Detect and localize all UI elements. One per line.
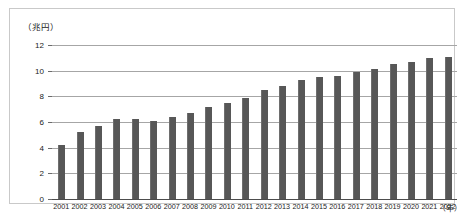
y-axis-tick-label: 8 <box>22 92 44 101</box>
y-axis-tick-label: 12 <box>22 41 44 50</box>
bar <box>95 126 102 199</box>
bar <box>205 107 212 199</box>
y-axis-tick-mark <box>48 45 52 46</box>
x-axis-unit-label: （年） <box>438 202 462 213</box>
bar <box>77 132 84 199</box>
bar <box>371 69 378 199</box>
bar <box>298 80 305 199</box>
y-axis-tick-mark <box>48 96 52 97</box>
bar <box>353 72 360 199</box>
y-axis-tick-label: 10 <box>22 66 44 75</box>
bar <box>445 57 452 199</box>
y-axis-tick-label: 0 <box>22 195 44 204</box>
bar <box>408 62 415 199</box>
y-axis-tick-mark <box>48 148 52 149</box>
bar <box>58 145 65 199</box>
x-axis-tick-labels: 2001200220032004200520062007200820092010… <box>52 202 457 214</box>
x-axis-line <box>52 199 457 200</box>
bar <box>224 103 231 199</box>
bar <box>261 90 268 199</box>
bar <box>169 117 176 199</box>
bar <box>187 113 194 199</box>
y-axis-unit-label: （兆円） <box>23 20 59 32</box>
bar <box>279 86 286 199</box>
bar <box>426 58 433 199</box>
y-axis-tick-label: 6 <box>22 118 44 127</box>
y-axis-tick-mark <box>48 71 52 72</box>
y-axis-tick-label: 2 <box>22 169 44 178</box>
y-axis-tick-label: 4 <box>22 143 44 152</box>
bar <box>113 119 120 199</box>
bar <box>242 98 249 199</box>
bar <box>132 119 139 199</box>
chart-frame: （兆円） 20012002200320042005200620072008200… <box>9 8 455 204</box>
bar-series <box>52 45 457 199</box>
bar <box>334 76 341 199</box>
y-axis-tick-mark <box>48 122 52 123</box>
bar <box>316 77 323 199</box>
bar <box>390 64 397 199</box>
bar <box>150 121 157 199</box>
y-axis-tick-mark <box>48 173 52 174</box>
